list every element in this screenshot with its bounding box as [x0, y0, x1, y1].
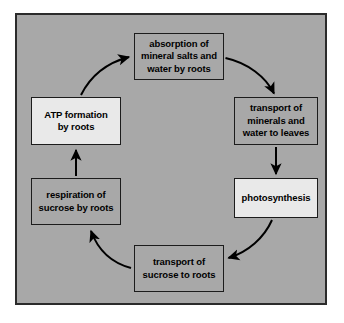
- node-absorption[interactable]: absorption of mineral salts and water by…: [134, 33, 224, 80]
- node-transport-minerals-label: transport of minerals and water to leave…: [240, 102, 313, 139]
- node-transport-minerals[interactable]: transport of minerals and water to leave…: [234, 97, 318, 145]
- node-respiration-label: respiration of sucrose by roots: [36, 189, 117, 214]
- edge-photosynthesis-to-transport-sucrose: [229, 220, 273, 258]
- node-transport-sucrose[interactable]: transport of sucrose to roots: [134, 245, 224, 292]
- edge-absorption-to-transport-minerals: [226, 58, 275, 94]
- node-photosynthesis[interactable]: photosynthesis: [234, 178, 318, 218]
- edge-atp-to-absorption: [81, 57, 129, 95]
- node-atp[interactable]: ATP formation by roots: [31, 97, 121, 145]
- cycle-diagram: absorption of mineral salts and water by…: [0, 0, 344, 323]
- node-transport-sucrose-label: transport of sucrose to roots: [140, 256, 219, 281]
- node-atp-label: ATP formation by roots: [41, 109, 110, 134]
- node-absorption-label: absorption of mineral salts and water by…: [138, 38, 220, 75]
- node-respiration[interactable]: respiration of sucrose by roots: [31, 178, 121, 225]
- edge-transport-sucrose-to-respiration: [91, 231, 131, 268]
- node-photosynthesis-label: photosynthesis: [239, 192, 314, 204]
